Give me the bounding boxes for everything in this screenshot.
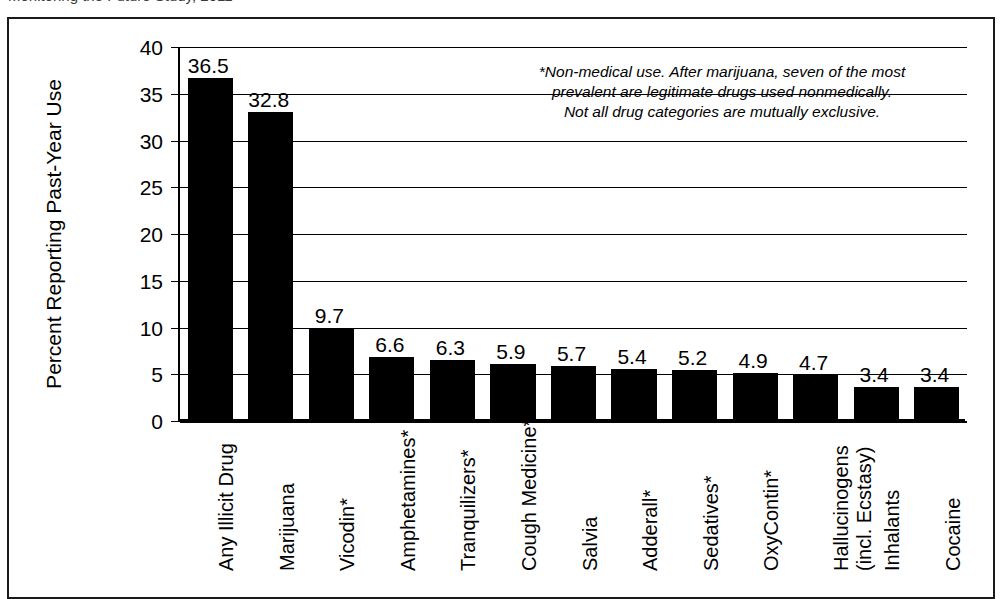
gridline <box>180 281 967 282</box>
gridline <box>180 187 967 188</box>
gridline <box>180 47 967 48</box>
x-axis-category-label: Cocaine <box>943 421 964 571</box>
y-axis-label: Percent Reporting Past-Year Use <box>39 47 69 421</box>
category-label-line: Marijuana <box>276 483 298 571</box>
y-axis-tick <box>171 94 180 95</box>
annotation-line-1: *Non-medical use. After marijuana, seven… <box>487 62 957 82</box>
category-label-line: Vicodin* <box>336 498 358 571</box>
y-axis-tick-label: 10 <box>121 318 163 339</box>
x-axis-category-label: Inhalants <box>882 421 903 571</box>
y-axis-tick <box>171 421 180 422</box>
y-axis-tick <box>171 281 180 282</box>
y-axis-label-holder: Percent Reporting Past-Year Use <box>42 47 72 421</box>
bar <box>369 357 414 419</box>
bar <box>551 366 596 419</box>
gridline <box>180 234 967 235</box>
x-axis-category-label: Cough Medicine* <box>519 421 540 571</box>
y-axis-tick-label: 0 <box>121 411 163 432</box>
category-label-line: Any Illicit Drug <box>215 443 237 571</box>
y-axis-tick <box>171 374 180 375</box>
category-label-line: Salvia <box>579 517 601 571</box>
y-axis-tick <box>171 328 180 329</box>
category-label-line: Adderall* <box>639 490 661 571</box>
y-axis-tick <box>171 234 180 235</box>
category-label-line: Sedatives* <box>700 475 722 571</box>
bar-value-label: 9.7 <box>291 305 368 326</box>
bar <box>248 112 293 419</box>
y-axis-tick-label: 40 <box>121 37 163 58</box>
bar-value-label: 3.4 <box>896 364 973 385</box>
y-axis-tick-label: 5 <box>121 364 163 385</box>
x-axis-category-label: Marijuana <box>277 421 298 571</box>
x-axis-category-label: OxyContin* <box>761 421 782 571</box>
y-axis-tick-label: 25 <box>121 177 163 198</box>
gridline <box>180 141 967 142</box>
category-label-line: Inhalants <box>881 490 903 571</box>
bar <box>611 369 656 419</box>
bar <box>793 375 838 419</box>
bar <box>733 373 778 419</box>
x-axis-category-label: Tranquilizers* <box>458 421 479 571</box>
y-axis-tick <box>171 187 180 188</box>
y-axis-tick-label: 20 <box>121 224 163 245</box>
category-label-line: OxyContin* <box>760 470 782 571</box>
bar-value-label: 32.8 <box>231 89 308 110</box>
x-axis-category-label: Any Illicit Drug <box>216 421 237 571</box>
category-label-line: Amphetamines* <box>397 430 419 571</box>
y-axis-tick <box>171 47 180 48</box>
bar <box>854 387 899 419</box>
annotation-line-2: prevalent are legitimate drugs used nonm… <box>487 82 957 102</box>
category-label-line: (incl. Ecstasy) <box>853 421 876 571</box>
bar <box>309 328 354 419</box>
bar-value-label: 36.5 <box>170 55 247 76</box>
bar <box>672 370 717 419</box>
y-axis-tick-label: 30 <box>121 131 163 152</box>
bar <box>430 360 475 419</box>
bar <box>914 387 959 419</box>
bar <box>490 364 535 419</box>
x-axis-category-label: Amphetamines* <box>398 421 419 571</box>
category-label-line: Hallucinogens <box>830 445 852 571</box>
annotation-line-3: Not all drug categories are mutually exc… <box>487 102 957 122</box>
category-label-line: Cocaine <box>942 498 964 571</box>
chart-annotation: *Non-medical use. After marijuana, seven… <box>487 62 957 122</box>
category-label-line: Tranquilizers* <box>457 449 479 571</box>
x-axis-category-label: Salvia <box>580 421 601 571</box>
y-axis-tick-label: 35 <box>121 84 163 105</box>
x-axis-category-label: Hallucinogens(incl. Ecstasy) <box>830 421 876 571</box>
category-label-line: Cough Medicine* <box>518 419 540 571</box>
x-axis-category-label: Vicodin* <box>337 421 358 571</box>
x-axis-category-label: Adderall* <box>640 421 661 571</box>
y-axis-tick <box>171 141 180 142</box>
y-axis-tick-label: 15 <box>121 271 163 292</box>
bar <box>188 78 233 419</box>
x-axis-category-label: Sedatives* <box>701 421 722 571</box>
gridline <box>180 328 967 329</box>
